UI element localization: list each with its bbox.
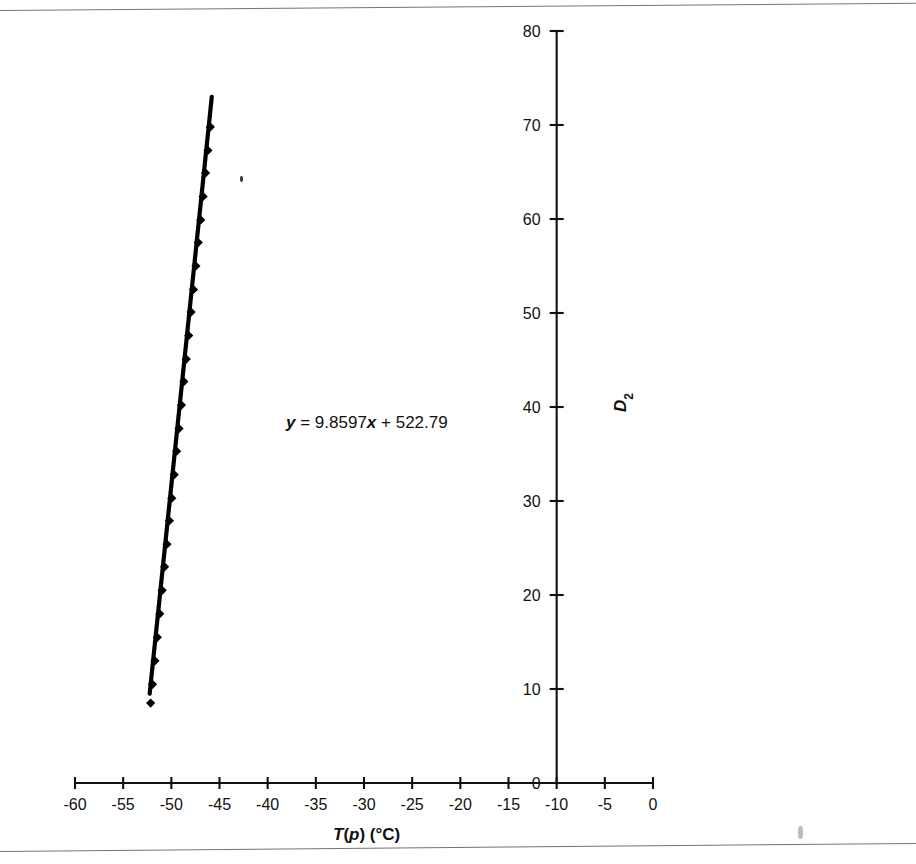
x-tick-label: -55 [112,796,135,813]
chart-svg: -60-55-50-45-40-35-30-25-20-15-10-50 010… [0,0,916,864]
y-tick-label: 20 [523,587,541,604]
x-tick-label: -60 [63,796,86,813]
x-tick-label: -40 [256,796,279,813]
figure-canvas: -60-55-50-45-40-35-30-25-20-15-10-50 010… [0,0,916,864]
y-axis-title: D2 [611,393,636,412]
y-tick-label: 30 [523,493,541,510]
x-tick-label: -20 [449,796,472,813]
regression-equation-annotation: y = 9.8597x + 522.79 [285,413,448,432]
x-tick-label: -15 [497,796,520,813]
y-tick-label: 40 [523,399,541,416]
y-tick-label: 80 [523,23,541,40]
x-tick-label: -45 [208,796,231,813]
x-tick-label: -50 [160,796,183,813]
x-axis: -60-55-50-45-40-35-30-25-20-15-10-50 [63,777,657,813]
x-tick-label: -30 [352,796,375,813]
x-axis-title: T(p) (°C) [333,825,400,844]
x-tick-label: 0 [649,796,658,813]
data-point-marker [146,699,155,708]
x-tick-label: -5 [598,796,612,813]
y-tick-label: 60 [523,211,541,228]
y-tick-label: 10 [523,681,541,698]
y-tick-label: 0 [532,775,541,792]
trend-line [150,97,212,694]
y-tick-label: 50 [523,305,541,322]
data-series [146,97,215,708]
y-axis: 01020304050607080 [523,23,564,792]
y-tick-label: 70 [523,117,541,134]
x-tick-label: -35 [304,796,327,813]
x-tick-label: -10 [545,796,568,813]
x-tick-label: -25 [401,796,424,813]
